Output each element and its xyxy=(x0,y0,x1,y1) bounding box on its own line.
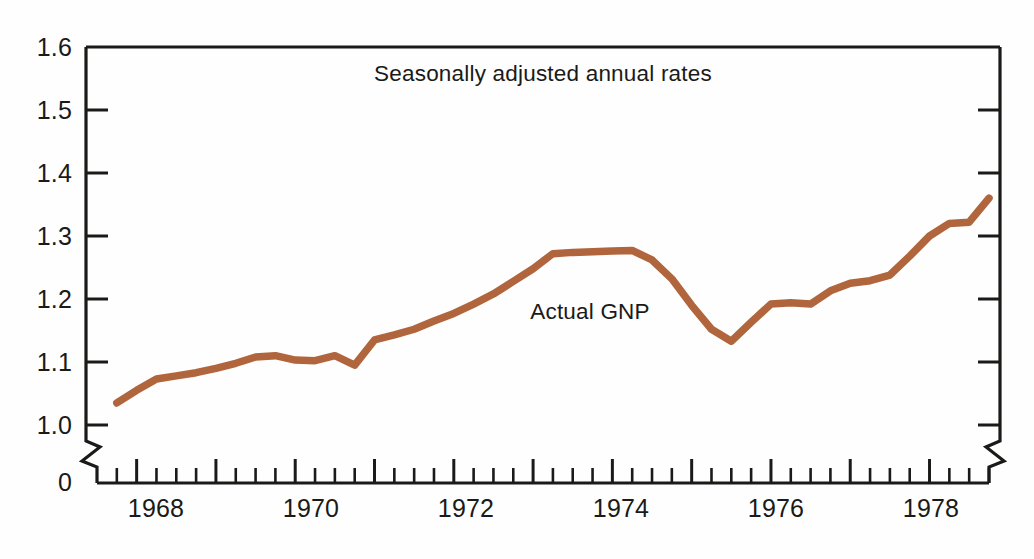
x-tick-label-1976: 1976 xyxy=(731,496,821,521)
right-axis xyxy=(986,47,1004,483)
y-tick-label-1-3: 1.3 xyxy=(10,224,72,249)
y-tick-label-0: 0 xyxy=(10,470,72,495)
y-tick-label-1-5: 1.5 xyxy=(10,98,72,123)
y-ticks-right xyxy=(978,110,1000,425)
y-ticks-left xyxy=(86,110,108,425)
x-ticks xyxy=(117,459,989,483)
y-tick-label-1-6: 1.6 xyxy=(10,35,72,60)
left-axis xyxy=(82,47,100,483)
y-tick-label-1-0: 1.0 xyxy=(10,413,72,438)
x-tick-label-1974: 1974 xyxy=(576,496,666,521)
x-tick-label-1972: 1972 xyxy=(421,496,511,521)
x-tick-label-1968: 1968 xyxy=(111,496,201,521)
chart-page: 1.6 1.5 1.4 1.3 1.2 1.1 1.0 0 1968 1970 … xyxy=(0,0,1034,559)
y-tick-label-1-1: 1.1 xyxy=(10,350,72,375)
chart-subtitle: Seasonally adjusted annual rates xyxy=(343,63,743,86)
series-annotation-actual-gnp: Actual GNP xyxy=(490,301,690,324)
x-tick-label-1978: 1978 xyxy=(886,496,976,521)
y-tick-label-1-2: 1.2 xyxy=(10,287,72,312)
y-tick-label-1-4: 1.4 xyxy=(10,161,72,186)
x-tick-label-1970: 1970 xyxy=(266,496,356,521)
